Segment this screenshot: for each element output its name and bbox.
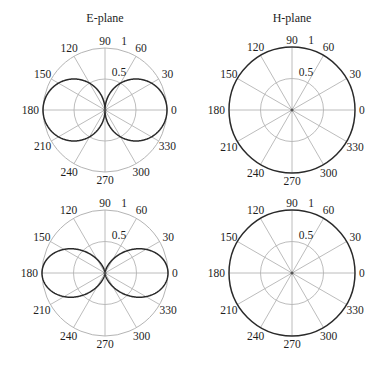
angle-tick-label: 300 xyxy=(320,167,338,179)
angle-tick-label: 210 xyxy=(220,141,238,153)
angle-tick-label: 30 xyxy=(349,68,361,80)
angle-tick-label: 0 xyxy=(359,104,365,116)
angle-tick-label: 330 xyxy=(347,304,365,316)
angle-tick-label: 60 xyxy=(136,204,148,216)
angle-tick-label: 60 xyxy=(323,41,335,53)
angle-tick-label: 60 xyxy=(323,204,335,216)
angle-tick-label: 120 xyxy=(60,204,78,216)
angle-tick-label: 240 xyxy=(60,166,78,178)
polar-chart-top-left: 03060901201501802102402703003300.51E-pla… xyxy=(22,11,177,186)
angle-tick-label: 270 xyxy=(283,175,301,187)
radial-tick-label: 0.5 xyxy=(112,229,127,241)
chart-title: E-plane xyxy=(86,11,123,25)
angle-tick-label: 0 xyxy=(172,267,178,279)
angle-tick-label: 300 xyxy=(132,166,150,178)
polar-chart-top-right: 03060901201501802102402703003300.51H-pla… xyxy=(208,11,365,187)
angle-tick-label: 240 xyxy=(247,330,265,342)
angle-tick-label: 300 xyxy=(320,330,338,342)
angle-tick-label: 90 xyxy=(99,197,111,209)
angle-tick-label: 210 xyxy=(34,140,52,152)
angle-tick-label: 240 xyxy=(60,330,78,342)
polar-charts-canvas: 03060901201501802102402703003300.51E-pla… xyxy=(0,0,383,368)
polar-chart-bottom-left: 03060901201501802102402703003300.51 xyxy=(21,197,178,350)
angle-tick-label: 60 xyxy=(135,42,147,54)
radial-tick-label: 1 xyxy=(121,197,127,209)
angle-tick-label: 180 xyxy=(208,104,226,116)
origin-marker xyxy=(290,271,293,274)
radial-tick-label: 0.5 xyxy=(299,229,314,241)
angle-tick-label: 180 xyxy=(21,267,39,279)
angle-tick-label: 120 xyxy=(60,42,78,54)
angle-tick-label: 90 xyxy=(286,34,298,46)
angle-tick-label: 90 xyxy=(286,197,298,209)
angle-tick-label: 150 xyxy=(33,231,51,243)
polar-plots-figure: 03060901201501802102402703003300.51E-pla… xyxy=(0,0,383,368)
angle-tick-label: 180 xyxy=(22,104,40,116)
angle-tick-label: 300 xyxy=(133,330,151,342)
angle-tick-label: 120 xyxy=(247,204,265,216)
chart-title: H-plane xyxy=(273,11,312,25)
radial-tick-label: 1 xyxy=(308,197,314,209)
angle-tick-label: 270 xyxy=(96,174,114,186)
angle-tick-label: 0 xyxy=(359,267,365,279)
radial-tick-label: 0.5 xyxy=(112,66,127,78)
angle-tick-label: 240 xyxy=(247,167,265,179)
angle-tick-label: 270 xyxy=(283,338,301,350)
angle-tick-label: 330 xyxy=(160,304,178,316)
angle-tick-label: 330 xyxy=(159,140,177,152)
angle-tick-label: 90 xyxy=(99,35,111,47)
angle-tick-label: 330 xyxy=(347,141,365,153)
angle-tick-label: 210 xyxy=(220,304,238,316)
angle-tick-label: 150 xyxy=(220,68,238,80)
origin-marker xyxy=(103,271,106,274)
angle-tick-label: 120 xyxy=(247,41,265,53)
angle-tick-label: 210 xyxy=(33,304,51,316)
angle-tick-label: 270 xyxy=(96,338,114,350)
polar-chart-bottom-right: 03060901201501802102402703003300.51 xyxy=(208,197,365,350)
radial-tick-label: 1 xyxy=(308,34,314,46)
angle-tick-label: 150 xyxy=(34,68,52,80)
angle-tick-label: 30 xyxy=(162,68,174,80)
origin-marker xyxy=(290,108,293,111)
radial-tick-label: 1 xyxy=(121,35,127,47)
angle-tick-label: 150 xyxy=(220,231,238,243)
angle-tick-label: 0 xyxy=(171,104,177,116)
origin-marker xyxy=(103,108,106,111)
angle-tick-label: 30 xyxy=(162,231,174,243)
radial-tick-label: 0.5 xyxy=(299,66,314,78)
angle-tick-label: 30 xyxy=(349,231,361,243)
angle-tick-label: 180 xyxy=(208,267,226,279)
